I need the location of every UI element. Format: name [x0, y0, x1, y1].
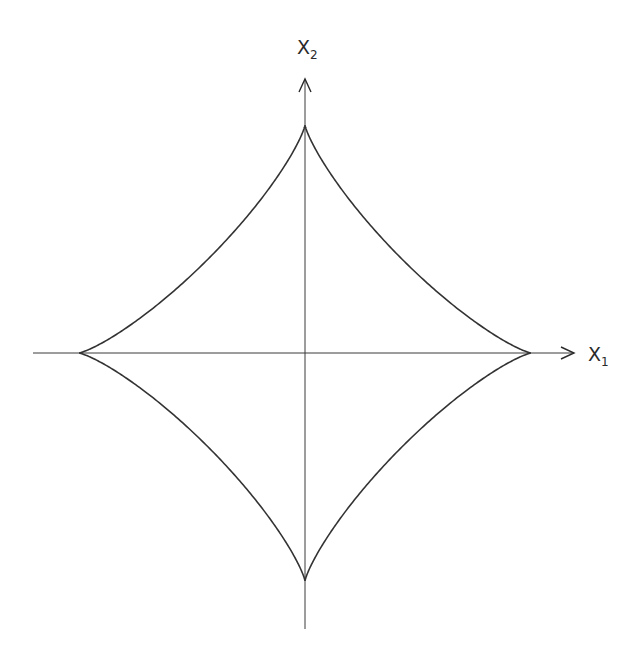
x-axis-label: X 1 — [588, 343, 609, 369]
svg-text:2: 2 — [310, 48, 318, 62]
svg-text:X: X — [588, 343, 601, 365]
svg-text:1: 1 — [601, 355, 609, 369]
diagram-canvas: X 1 X 2 — [0, 0, 640, 657]
y-axis-label: X 2 — [297, 36, 318, 62]
svg-text:X: X — [297, 36, 310, 58]
